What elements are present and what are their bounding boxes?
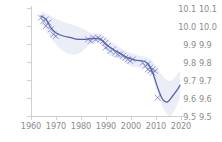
x-axis-tick (131, 116, 132, 120)
chart-panel-main: 10.1 10.0 9.9 9.8 9.7 9.6 9.5 1960 1970 … (0, 0, 196, 142)
y-axis-tick-label-adjacent: 9.9 (199, 41, 222, 49)
plot-svg (31, 6, 185, 116)
x-axis-spine (31, 116, 185, 117)
x-axis-tick (156, 116, 157, 120)
x-axis-tick (81, 116, 82, 120)
y-axis-tick-label-adjacent: 10.1 (199, 5, 222, 13)
y-axis-tick-label-adjacent: 9.8 (199, 59, 222, 67)
x-axis-tick-label: 2020 (164, 122, 198, 130)
x-axis-tick (31, 116, 32, 120)
x-axis-tick (181, 116, 182, 120)
y-axis-tick-label-adjacent: 10.0 (199, 23, 222, 31)
plot-area (31, 6, 185, 116)
y-axis-tick-label-adjacent: 9.5 (199, 113, 222, 121)
x-axis-tick (106, 116, 107, 120)
x-axis-tick (56, 116, 57, 120)
confidence-band (41, 11, 180, 116)
y-axis-tick-label-adjacent: 9.6 (199, 95, 222, 103)
chart-panel-adjacent-clipped: 10.1 10.0 9.9 9.8 9.7 9.6 9.5 (196, 0, 222, 142)
y-axis-tick-label-adjacent: 9.7 (199, 77, 222, 85)
chart-figure: 10.1 10.0 9.9 9.8 9.7 9.6 9.5 1960 1970 … (0, 0, 222, 142)
